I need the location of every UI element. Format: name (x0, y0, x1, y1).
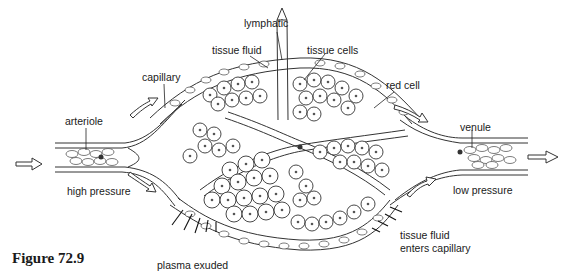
label-low-pressure: low pressure (453, 185, 513, 196)
label-tissue-cells: tissue cells (307, 45, 358, 56)
label-capillary: capillary (142, 72, 181, 83)
label-plasma-exuded: plasma exuded (157, 260, 228, 271)
label-high-pressure: high pressure (67, 186, 131, 197)
label-red-cell: red cell (386, 80, 420, 91)
label-tissue-fluid-enters-line2: enters capillary (400, 243, 471, 254)
tissue-cells-right (313, 139, 389, 177)
label-tissue-fluid-enters-line1: tissue fluid (400, 230, 450, 241)
tissue-cells-upper (203, 73, 363, 121)
figure-caption: Figure 72.9 (12, 250, 84, 267)
flow-in-arrow-icon (16, 158, 42, 170)
upper-capillary (150, 58, 420, 124)
venule-bottom-arrow-icon (407, 177, 436, 197)
label-lymphatic: lymphatic (244, 18, 288, 29)
tissue-cells-left (183, 123, 240, 163)
label-arteriole: arteriole (65, 116, 103, 127)
label-venule: venule (460, 122, 491, 133)
label-tissue-fluid: tissue fluid (212, 45, 262, 56)
flow-out-arrow-icon (528, 151, 558, 163)
capillary-bed-diagram (0, 0, 588, 277)
